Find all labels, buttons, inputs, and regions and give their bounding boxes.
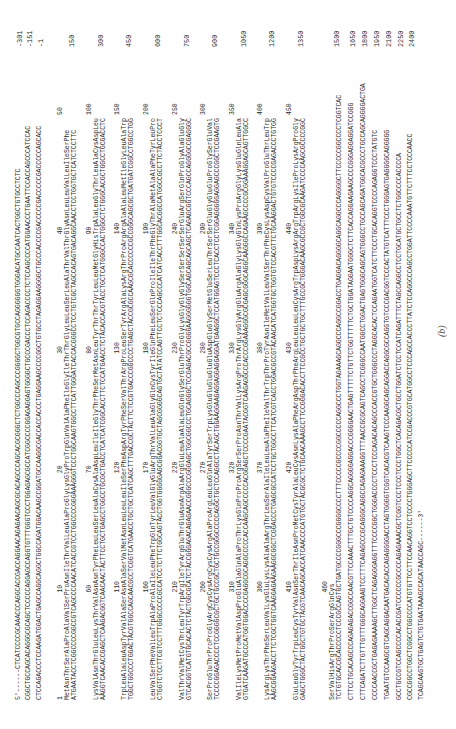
residue-position-number: 60 — [86, 585, 93, 593]
residue-position-number: 40 — [57, 227, 64, 235]
residue-position-number: 130 — [114, 342, 121, 354]
residue-position-number: 370 — [257, 462, 264, 474]
nucleotide-position-number: 1500 — [333, 31, 341, 47]
nucleotide-sequence: TCAGCAAGTGCTGAGTCTGTGAATAAAGCCACATAACCAG… — [419, 510, 425, 700]
nucleotide-sequence: CTTCAGATCTTGTTTGTTTGGGCAGGAAGTCCTTTCAGAG… — [361, 83, 367, 700]
residue-position-number: 260 — [200, 581, 207, 593]
nucleotide-sequence: GTCACGGTCATGTGCACACTCTACTGGCGCATCTACCGGG… — [187, 118, 193, 700]
residue-position-number: 30 — [57, 346, 64, 354]
residue-position-number: 90 — [86, 227, 93, 235]
residue-position-number: 400 — [257, 103, 264, 115]
nucleotide-sequence: TCTGTGCACCGCACCCCCTCCCGCCAGTGCTGATGCCCCG… — [337, 95, 343, 700]
nucleotide-sequence: TGAATGTCCAAGCGTCAGCAGGACAATGACACACCAGAGG… — [385, 130, 391, 700]
residue-position-number: 160 — [143, 581, 150, 593]
residue-position-number: 180 — [143, 342, 150, 354]
residue-position-number: 50 — [57, 107, 64, 115]
residue-position-number: 430 — [286, 342, 293, 354]
nucleotide-sequence: GTGATCAAGATGCCCATGGTGGACCCCGAGGCGCAGGCCC… — [244, 118, 250, 700]
nucleotide-sequence: CTGGTCTCCTTCGTCCTTTGGGCCCCCGCCATCCTCTTCT… — [158, 118, 164, 700]
sequence-figure: 5'------CTCATCCCCGCAAACCCAGGCACCGACCAGGA… — [0, 0, 456, 729]
residue-position-number: 330 — [229, 342, 236, 354]
residue-position-number: 270 — [200, 462, 207, 474]
nucleotide-position-number: 2400 — [408, 31, 416, 47]
residue-position-number: 140 — [114, 223, 121, 235]
nucleotide-sequence: TGGCTGGCCCTGGACTACGTGGCCAGCAACGCCTCGGTCA… — [129, 118, 135, 700]
residue-position-number: 240 — [172, 223, 179, 235]
nucleotide-position-number: 2100 — [385, 31, 393, 47]
residue-position-number: 210 — [172, 581, 179, 593]
residue-position-number: 20 — [57, 465, 64, 473]
residue-position-number: 80 — [86, 346, 93, 354]
nucleotide-position-number: 1200 — [268, 31, 276, 47]
residue-position-number: 170 — [143, 462, 150, 474]
nucleotide-sequence: GCCTGCCGTCCAGCCCCACACCGATCCCCCCGCCCCAGAG… — [397, 153, 403, 700]
residue-position-number: 100 — [86, 103, 93, 115]
nucleotide-position-number: 150 — [68, 35, 76, 47]
residue-position-number: 1 — [57, 696, 64, 700]
residue-position-number: 410 — [286, 581, 293, 593]
residue-position-number: 450 — [286, 103, 293, 115]
residue-position-number: 320 — [229, 462, 236, 474]
nucleotide-sequence: ATGAATACCTCGGCCCCGGCCGTCAGCCCCAACATCACCG… — [72, 130, 78, 700]
residue-position-number: 120 — [114, 462, 121, 474]
nucleotide-sequence: CTTCCTGCACAGCCCAGAGAGACCGGCCAACGTTCCAAAC… — [349, 103, 355, 700]
nucleotide-position-number: 1950 — [373, 31, 381, 47]
residue-position-number: 200 — [143, 103, 150, 115]
residue-position-number: 420 — [286, 462, 293, 474]
nucleotide-position-number: 1650 — [349, 31, 357, 47]
residue-position-number: 110 — [114, 581, 121, 593]
residue-position-number: 150 — [114, 103, 121, 115]
nucleotide-position-number: -151 — [26, 31, 34, 47]
nucleotide-position-number: 450 — [125, 35, 133, 47]
residue-position-number: 340 — [229, 223, 236, 235]
nucleotide-sequence: AAGCGGAAGACCTTCTCGCTGGTCAAGGAGAAGAAGGCGG… — [272, 118, 278, 700]
figure-caption: (b) — [436, 325, 447, 337]
nucleotide-position-number: 300 — [97, 35, 105, 47]
nucleotide-sequence: GAGCTGGGCTACTGGCTGTGCTACGTCAACAGCACCATCA… — [301, 118, 307, 700]
residue-position-number: 300 — [200, 103, 207, 115]
residue-position-number: 390 — [257, 223, 264, 235]
nucleotide-position-number: -301 — [16, 31, 24, 47]
nucleotide-sequence: CTCCAGACCCTCCAAGATGGACTGAGCCAGGCAGGCTGGC… — [37, 126, 43, 700]
nucleotide-position-number: 2250 — [397, 31, 405, 47]
residue-position-number: 360 — [257, 581, 264, 593]
nucleotide-position-number: 1800 — [361, 31, 369, 47]
residue-position-number: 250 — [172, 103, 179, 115]
residue-position-number: 220 — [172, 462, 179, 474]
nucleotide-position-number: 1050 — [240, 31, 248, 47]
nucleotide-sequence: 5'------CTCATCCCCGCAAACCCAGGCACCGACCAGGA… — [16, 169, 22, 700]
nucleotide-sequence: CGCCGGCCTGGCTCGGCCTGGCCCCATGTGTTCCTTCCAA… — [408, 134, 414, 700]
residue-position-number: 460 — [322, 581, 329, 593]
nucleotide-position-number: 600 — [154, 35, 162, 47]
nucleotide-sequence: CCCCAACCGCTGAGAGAAAAGCTTGGCTCAGAGGGAGGTT… — [373, 130, 379, 700]
residue-position-number: 280 — [200, 342, 207, 354]
nucleotide-sequence: AAGGTCAACACCGAGCTCAAGACGGTCAACAACTACTTCC… — [101, 118, 107, 700]
residue-position-number: 350 — [229, 103, 236, 115]
residue-position-number: 70 — [86, 465, 93, 473]
nucleotide-position-number: 750 — [183, 35, 191, 47]
nucleotide-sequence: CGGCTGCCAGCACAGGGCGCAGCTCCCCCAGGAGCCAGGT… — [26, 126, 32, 700]
nucleotide-sequence: TCCCCGGAGACCCCTCCGGGGCGCTGCTGCCGCTGCTGCC… — [215, 118, 221, 700]
nucleotide-position-number: 1350 — [297, 31, 305, 47]
nucleotide-position-number: 900 — [211, 35, 219, 47]
residue-position-number: 10 — [57, 585, 64, 593]
residue-position-number: 380 — [257, 342, 264, 354]
residue-position-number: 290 — [200, 223, 207, 235]
residue-position-number: 190 — [143, 223, 150, 235]
residue-position-number: 310 — [229, 581, 236, 593]
residue-position-number: 440 — [286, 223, 293, 235]
nucleotide-position-number: -1 — [37, 39, 45, 47]
residue-position-number: 230 — [172, 342, 179, 354]
